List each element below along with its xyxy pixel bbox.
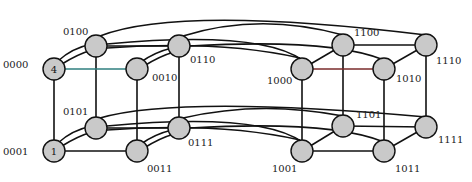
label-0100: 0100: [63, 26, 88, 37]
label-1101: 1101: [356, 109, 381, 120]
vertical-edges: [54, 45, 426, 151]
node-1000: [291, 58, 313, 80]
label-0001: 0001: [3, 146, 28, 157]
node-0101: [85, 117, 107, 139]
label-0111: 0111: [188, 137, 213, 148]
node-0111: [168, 117, 190, 139]
node-1111: [415, 116, 437, 138]
node-0100: [85, 35, 107, 57]
label-1010: 1010: [396, 73, 421, 84]
node-0011: [126, 140, 148, 162]
label-1110: 1110: [436, 55, 461, 66]
node-0110: [168, 35, 190, 57]
label-1111: 1111: [438, 134, 463, 145]
svg-text:4: 4: [51, 64, 57, 75]
label-1100: 1100: [354, 27, 379, 38]
node-0010: [126, 58, 148, 80]
node-1010: [373, 58, 395, 80]
hypercube-diagram: 4 1 0000 0100 0010 0110 1000 1100 1010 1…: [0, 0, 472, 182]
label-1001: 1001: [272, 163, 297, 174]
node-1001: [291, 140, 313, 162]
svg-text:1: 1: [51, 146, 57, 157]
hypercube-graph: 4 1 0000 0100 0010 0110 1000 1100 1010 1…: [0, 0, 472, 182]
node-0000: 4: [43, 58, 65, 80]
label-0010: 0010: [152, 72, 177, 83]
label-0101: 0101: [63, 106, 88, 117]
label-1011: 1011: [395, 163, 420, 174]
bottom-right-edges: [302, 126, 426, 151]
node-1110: [415, 34, 437, 56]
label-0011: 0011: [147, 163, 172, 174]
top-right-edges: [302, 45, 426, 69]
nodes: 4 1: [43, 34, 437, 162]
node-1100: [332, 34, 354, 56]
label-0000: 0000: [3, 59, 28, 70]
node-0001: 1: [43, 140, 65, 162]
label-0110: 0110: [190, 54, 215, 65]
node-1011: [373, 140, 395, 162]
label-1000: 1000: [267, 75, 292, 86]
node-1101: [332, 115, 354, 137]
